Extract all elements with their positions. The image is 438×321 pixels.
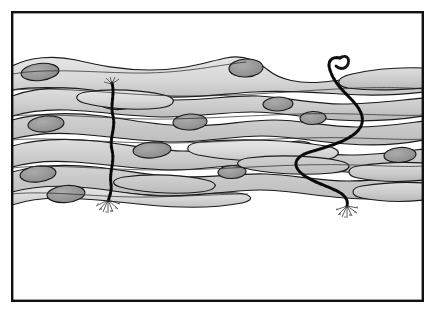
- figure-root: [0, 0, 438, 321]
- spindle-cell: [353, 182, 424, 201]
- cell-nucleus: [300, 111, 326, 125]
- figure-illustration: [0, 0, 438, 321]
- cell-nucleus: [263, 96, 293, 111]
- cell-layer-band: [12, 57, 424, 207]
